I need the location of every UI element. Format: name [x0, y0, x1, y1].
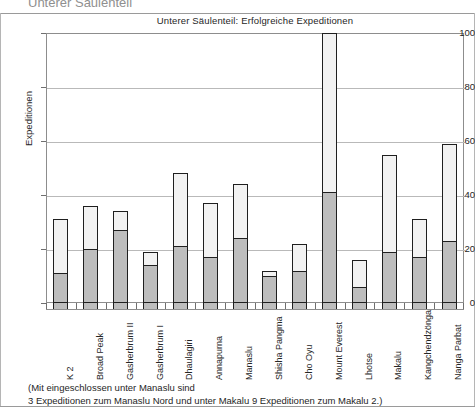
bar-stack[interactable]: [203, 203, 218, 303]
x-axis-category-label: Lhotse: [364, 353, 374, 380]
bar-stack[interactable]: [442, 144, 457, 303]
x-axis-category-label: Gasherbrum I: [155, 325, 165, 380]
chart-figure: Unterer Säulenteil Unterer Säulenteil: E…: [0, 0, 475, 416]
bar-segment-lower[interactable]: [292, 271, 307, 303]
clipped-header-region: Unterer Säulenteil: [0, 0, 475, 13]
bar-segment-lower[interactable]: [143, 265, 158, 303]
x-axis-category-label: Broad Peak: [95, 333, 105, 380]
x-axis-category-label: Cho Oyu: [304, 344, 314, 380]
bar-stack[interactable]: [83, 206, 98, 303]
bar-stack[interactable]: [262, 271, 277, 303]
bar-segment-lower[interactable]: [233, 238, 248, 303]
bar-segment-lower[interactable]: [322, 192, 337, 303]
bar-stack[interactable]: [173, 173, 188, 303]
x-axis-category-label: K 2: [65, 366, 75, 380]
footnote-line-2: 3 Expeditionen zum Manaslu Nord und unte…: [28, 395, 468, 408]
bar-segment-lower[interactable]: [262, 276, 277, 303]
x-axis-category-label: Mount Everest: [334, 322, 344, 380]
x-axis-separator: [46, 309, 464, 310]
bar-stack[interactable]: [412, 219, 427, 303]
bar-segment-lower[interactable]: [352, 287, 367, 303]
bar-segment-lower[interactable]: [53, 273, 68, 303]
bar-segment-lower[interactable]: [113, 230, 128, 303]
x-axis-category-label: Dhaulagiri: [184, 339, 194, 380]
chart-footnote: (Mit eingeschlossen unter Manaslu sind 3…: [28, 382, 468, 407]
x-axis-category-label: Shisha Pangma: [274, 316, 284, 380]
bar-stack[interactable]: [322, 33, 337, 303]
x-axis-labels: K 2Broad PeakGasherbrum IIGasherbrum IDh…: [46, 312, 464, 384]
clipped-header-text: Unterer Säulenteil: [28, 0, 132, 10]
bar-segment-lower[interactable]: [442, 241, 457, 303]
bars-layer: [46, 33, 464, 303]
x-axis-category-label: Gasherbrum II: [125, 322, 135, 380]
bar-segment-lower[interactable]: [382, 252, 397, 303]
bar-stack[interactable]: [382, 155, 397, 304]
x-axis-category-label: Makalu: [393, 351, 403, 380]
bar-stack[interactable]: [113, 211, 128, 303]
bar-stack[interactable]: [233, 184, 248, 303]
bar-stack[interactable]: [352, 260, 367, 303]
figure-top-border: [0, 13, 475, 14]
y-axis-label: Expeditionen: [23, 91, 34, 146]
bar-segment-lower[interactable]: [173, 246, 188, 303]
figure-left-border: [0, 13, 1, 407]
x-axis-category-label: Kangchendzönga: [423, 310, 433, 380]
bar-stack[interactable]: [292, 244, 307, 303]
x-axis-category-label: Annapurna: [214, 336, 224, 380]
bar-segment-lower[interactable]: [412, 257, 427, 303]
bar-segment-lower[interactable]: [203, 257, 218, 303]
footnote-line-1: (Mit eingeschlossen unter Manaslu sind: [28, 382, 468, 395]
x-axis-category-label: Manaslu: [244, 346, 254, 380]
bar-stack[interactable]: [53, 219, 68, 303]
bar-stack[interactable]: [143, 252, 158, 303]
bar-segment-lower[interactable]: [83, 249, 98, 303]
chart-title: Unterer Säulenteil: Erfolgreiche Expedit…: [40, 15, 470, 26]
x-axis-category-label: Nanga Parbat: [453, 324, 463, 380]
